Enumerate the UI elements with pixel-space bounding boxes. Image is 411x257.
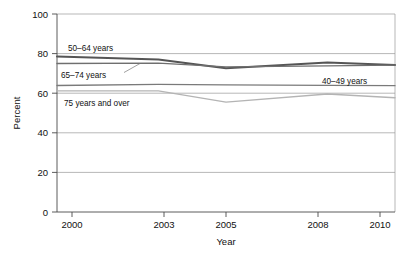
y-tick-label-20: 20 [37,167,48,178]
x-tick-marks [72,212,380,217]
y-tick-label-0: 0 [43,207,48,218]
x-tick-label-2000: 2000 [61,219,82,230]
x-tick-label-2008: 2008 [307,219,328,230]
y-tick-label-100: 100 [32,9,48,20]
x-tick-label-2010: 2010 [369,219,390,230]
series-label-65-74: 65–74 years [61,71,106,80]
y-axis-title: Percent [11,96,22,129]
line-chart-figure: 100 80 60 40 20 0 Percent 2000 2003 2005… [0,0,411,257]
y-tick-label-40: 40 [37,127,48,138]
y-tick-label-80: 80 [37,48,48,59]
x-axis-title: Year [216,236,235,247]
y-tick-marks [52,14,57,212]
series-label-75-plus: 75 years and over [64,99,130,108]
x-tick-label-2003: 2003 [153,219,174,230]
chart-svg: 100 80 60 40 20 0 Percent 2000 2003 2005… [0,0,411,257]
series-label-50-64: 50–64 years [68,44,113,53]
series-label-40-49: 40–49 years [322,77,367,86]
y-tick-label-60: 60 [37,88,48,99]
x-tick-label-2005: 2005 [215,219,236,230]
